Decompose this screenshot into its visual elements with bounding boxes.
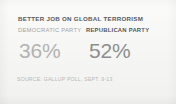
- statistic-card: BETTER JOB ON GLOBAL TERRORISM DEMOCRATI…: [0, 0, 176, 104]
- source-caption: SOURCE: GALLUP POLL, SEPT. 9-13: [17, 76, 112, 82]
- card-inner: BETTER JOB ON GLOBAL TERRORISM DEMOCRATI…: [0, 0, 176, 104]
- democratic-party-value: 36%: [19, 39, 60, 63]
- democratic-party-label: DEMOCRATIC PARTY: [18, 27, 81, 33]
- republican-party-value: 52%: [89, 39, 130, 63]
- page-title: BETTER JOB ON GLOBAL TERRORISM: [18, 15, 143, 22]
- republican-party-label: REPUBLICAN PARTY: [86, 27, 149, 33]
